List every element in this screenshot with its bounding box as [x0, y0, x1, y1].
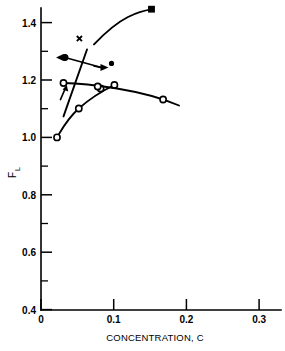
x-tick-label-0.3: 0.3 [252, 314, 266, 325]
marker-filled-square [149, 6, 155, 12]
y-tick-label-1.0: 1.0 [22, 132, 36, 143]
y-axis-title-sub: L [14, 167, 21, 171]
marker-open-circle [76, 105, 82, 111]
y-tick-label-0.8: 0.8 [22, 190, 36, 201]
y-tick-label-1.2: 1.2 [22, 75, 36, 86]
annotation-short-arrow [61, 85, 69, 100]
series-isolated-x-marker [77, 36, 82, 41]
x-tick-labels: 0 0.1 0.2 0.3 [38, 314, 266, 325]
y-axis-title-main: F [7, 172, 18, 178]
series-flat-descending-curve-open-circle [60, 80, 179, 106]
figure-container: 1.4 1.2 1.0 0.8 0.6 0.4 0 0.1 0.2 0.3 CO… [0, 0, 285, 351]
series-upper-curve-filled-square [94, 6, 154, 44]
arrow-left-icon [56, 54, 64, 61]
y-tick-label-0.6: 0.6 [22, 247, 36, 258]
marker-small-dot [110, 61, 114, 65]
y-tick-labels: 1.4 1.2 1.0 0.8 0.6 0.4 [22, 18, 36, 316]
x-tick-label-0.2: 0.2 [179, 314, 193, 325]
y-tick-label-1.4: 1.4 [22, 18, 36, 29]
y-axis-title: F L [7, 167, 21, 178]
x-tick-label-0: 0 [38, 314, 44, 325]
marker-open-circle [160, 96, 166, 102]
curve-path-upper [94, 9, 152, 44]
x-tick-label-0.1: 0.1 [107, 314, 121, 325]
marker-open-circle [60, 80, 66, 86]
axis-group [41, 8, 281, 310]
arrow-right-shaft [94, 66, 102, 68]
y-tick-marks [41, 23, 52, 310]
y-tick-label-0.4: 0.4 [22, 305, 36, 316]
x-tick-marks [41, 299, 259, 310]
x-axis-title: CONCENTRATION, C [106, 332, 204, 343]
marker-open-circle [95, 83, 101, 89]
series-isolated-dot-marker [110, 61, 114, 65]
marker-open-circle [54, 134, 60, 140]
chart-plot: 1.4 1.2 1.0 0.8 0.6 0.4 0 0.1 0.2 0.3 CO… [0, 0, 285, 351]
